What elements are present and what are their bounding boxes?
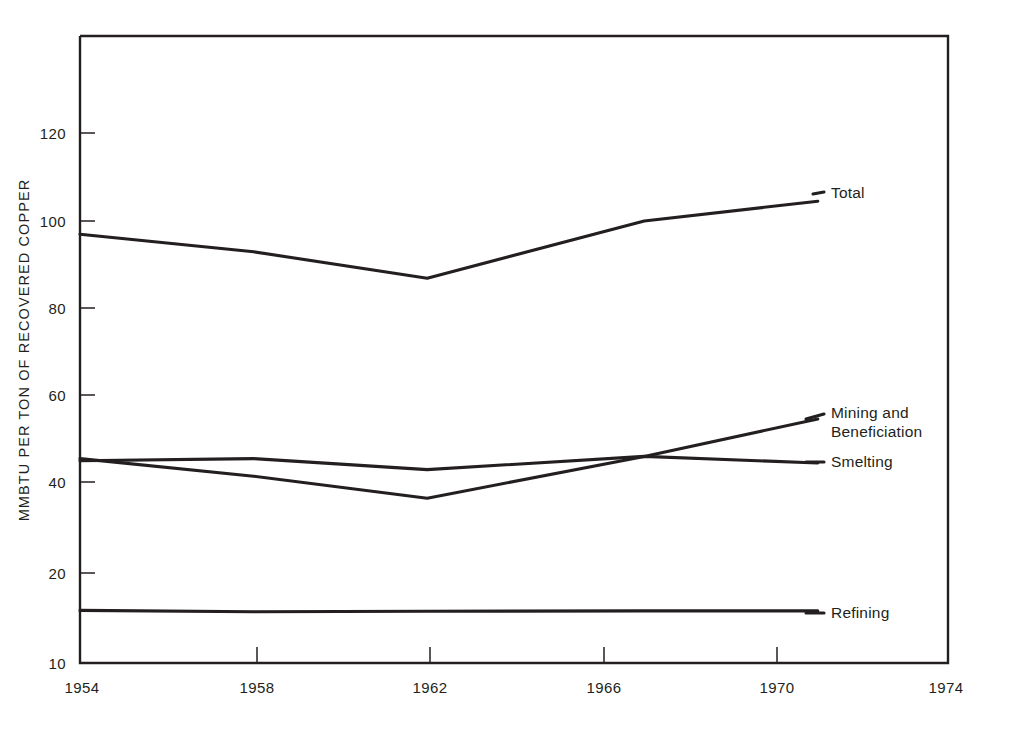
y-tick-label-80: 80 [49, 300, 67, 317]
series-label-total: Total [831, 184, 865, 201]
y-tick-label-120: 120 [40, 125, 66, 142]
y-axis-ticks [80, 133, 95, 573]
series-label-leaders [806, 192, 824, 613]
y-axis-title: MMBTU PER TON OF RECOVERED COPPER [16, 179, 32, 522]
series-line-total [80, 201, 818, 278]
x-tick-label-1962: 1962 [413, 679, 448, 696]
plot-frame [80, 36, 948, 663]
x-tick-label-1970: 1970 [760, 679, 795, 696]
series-label-mining-line2: Beneficiation [831, 423, 922, 440]
series-label-refining: Refining [831, 604, 889, 621]
y-axis-tick-labels: 120 100 80 60 40 20 10 [40, 125, 66, 672]
chart-figure: 120 100 80 60 40 20 10 MMBTU PER TON OF … [0, 0, 1010, 732]
series-labels: Total Mining and Beneficiation Smelting … [831, 184, 922, 621]
y-tick-label-100: 100 [40, 213, 66, 230]
x-axis-tick-labels: 1954 1958 1962 1966 1970 1974 [65, 679, 964, 696]
y-tick-label-40: 40 [49, 474, 67, 491]
x-tick-label-1966: 1966 [587, 679, 622, 696]
x-tick-label-1958: 1958 [240, 679, 275, 696]
y-tick-label-10: 10 [49, 655, 67, 672]
series-lines [80, 201, 818, 612]
x-tick-label-1954: 1954 [65, 679, 100, 696]
series-line-smelting [80, 456, 818, 469]
y-tick-label-60: 60 [49, 387, 67, 404]
x-axis-ticks [257, 647, 777, 663]
leader-total [813, 192, 824, 194]
line-chart: 120 100 80 60 40 20 10 MMBTU PER TON OF … [0, 0, 1010, 732]
y-tick-label-20: 20 [49, 565, 67, 582]
series-label-smelting: Smelting [831, 453, 893, 470]
series-line-refining [80, 610, 818, 611]
x-tick-label-1974: 1974 [929, 679, 964, 696]
series-label-mining-line1: Mining and [831, 404, 909, 421]
